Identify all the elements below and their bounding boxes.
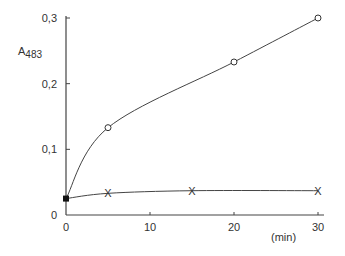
circle-marker xyxy=(315,15,321,21)
x-tick-label: 20 xyxy=(228,221,240,233)
y-tick-label: 0,2 xyxy=(42,78,57,90)
circle-marker xyxy=(231,59,237,65)
circle-series-line xyxy=(66,18,318,199)
cross-marker: X xyxy=(104,187,112,199)
circle-marker xyxy=(105,125,111,131)
x-tick-label: 10 xyxy=(144,221,156,233)
cross-marker: X xyxy=(314,185,322,197)
y-tick-label: 0,3 xyxy=(42,12,57,24)
chart: 00,10,20,30102030XXX xyxy=(0,0,345,256)
x-axis-label: (min) xyxy=(271,232,296,243)
x-tick-label: 0 xyxy=(63,221,69,233)
x-tick-label: 30 xyxy=(312,221,324,233)
cross-marker: X xyxy=(188,185,196,197)
y-tick-label: 0,1 xyxy=(42,143,57,155)
start-marker xyxy=(63,196,69,202)
y-tick-label: 0 xyxy=(51,209,57,221)
y-axis-label: A483 xyxy=(18,46,42,60)
